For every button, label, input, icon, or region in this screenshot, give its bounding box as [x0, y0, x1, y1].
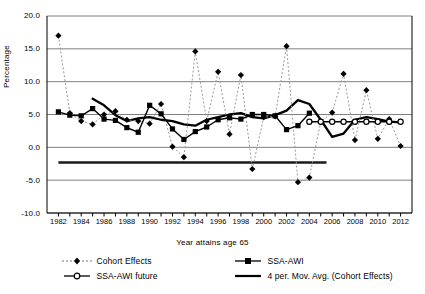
series-ssa-awi-future — [307, 119, 403, 124]
legend-swatch-cohort-effects — [62, 256, 92, 266]
plot-canvas — [0, 0, 425, 294]
legend-item-moving-average: 4 per. Mov. Avg. (Cohort Effects) — [233, 270, 393, 281]
legend-label-moving-average: 4 per. Mov. Avg. (Cohort Effects) — [265, 271, 392, 281]
legend-item-ssa-awi: SSA-AWI — [233, 255, 304, 266]
x-tick-label-2012: 2012 — [386, 217, 416, 226]
legend-swatch-ssa-awi — [233, 256, 263, 266]
legend-swatch-ssa-awi-future — [62, 271, 92, 281]
legend-swatch-moving-average — [233, 271, 263, 281]
legend-item-cohort-effects: Cohort Effects — [62, 255, 152, 266]
legend-label-ssa-awi: SSA-AWI — [265, 256, 303, 266]
x-tickmarks-group — [58, 213, 400, 217]
legend-item-ssa-awi-future: SSA-AWI future — [62, 270, 158, 281]
x-axis-title: Year attains age 65 — [0, 238, 425, 247]
legend-label-ssa-awi-future: SSA-AWI future — [94, 271, 157, 281]
legend-label-cohort-effects: Cohort Effects — [94, 256, 151, 266]
series-ssa-awi — [56, 103, 312, 142]
chart-figure: Percentage 20.0 15.0 10.0 5.0 0.0 -5.0 -… — [0, 0, 425, 294]
